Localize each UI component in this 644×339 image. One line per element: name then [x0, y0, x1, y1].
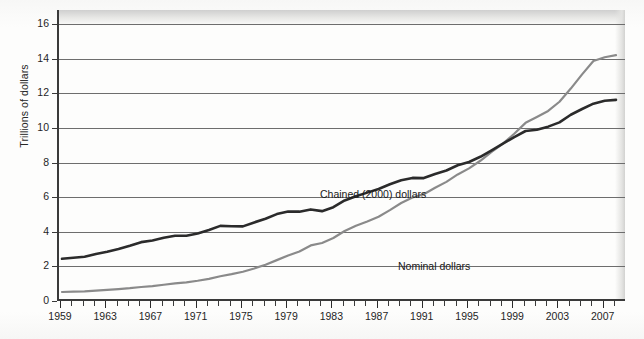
y-tick-mark	[52, 301, 57, 302]
x-tick-minor	[218, 301, 219, 306]
x-tick-label: 1967	[128, 310, 172, 322]
y-tick-label: 0	[27, 294, 49, 306]
x-tick-label: 1983	[309, 310, 353, 322]
x-tick-minor	[71, 301, 72, 306]
x-tick-minor	[309, 301, 310, 306]
y-tick-mark	[52, 163, 57, 164]
x-tick-minor	[94, 301, 95, 306]
x-tick-major	[557, 301, 558, 308]
x-tick-minor	[388, 301, 389, 306]
x-tick-minor	[410, 301, 411, 306]
x-tick-major	[286, 301, 287, 308]
x-tick-minor	[173, 301, 174, 306]
x-tick-major	[105, 301, 106, 308]
x-tick-label: 1975	[219, 310, 263, 322]
x-tick-minor	[117, 301, 118, 306]
x-tick-minor	[128, 301, 129, 306]
plot-area: Chained (2000) dollars Nominal dollars	[57, 10, 625, 301]
x-tick-minor	[490, 301, 491, 306]
x-tick-minor	[444, 301, 445, 306]
x-tick-major	[603, 301, 604, 308]
x-tick-major	[512, 301, 513, 308]
x-tick-label: 1991	[400, 310, 444, 322]
x-tick-minor	[580, 301, 581, 306]
x-tick-label: 2003	[535, 310, 579, 322]
x-tick-minor	[162, 301, 163, 306]
x-tick-major	[467, 301, 468, 308]
x-tick-minor	[320, 301, 321, 306]
y-tick-mark	[52, 266, 57, 267]
x-tick-minor	[83, 301, 84, 306]
y-tick-label: 4	[27, 225, 49, 237]
x-tick-label: 2007	[581, 310, 625, 322]
x-tick-label: 1959	[38, 310, 82, 322]
y-tick-mark	[52, 24, 57, 25]
x-tick-label: 1999	[490, 310, 534, 322]
x-tick-major	[241, 301, 242, 308]
x-tick-label: 1963	[83, 310, 127, 322]
x-tick-minor	[591, 301, 592, 306]
y-tick-label: 12	[27, 86, 49, 98]
x-tick-minor	[614, 301, 615, 306]
x-tick-major	[331, 301, 332, 308]
x-tick-minor	[252, 301, 253, 306]
x-tick-label: 1979	[264, 310, 308, 322]
x-tick-minor	[535, 301, 536, 306]
x-tick-label: 1971	[174, 310, 218, 322]
x-tick-label: 1995	[445, 310, 489, 322]
x-tick-minor	[230, 301, 231, 306]
y-tick-label: 2	[27, 259, 49, 271]
x-tick-minor	[478, 301, 479, 306]
x-tick-major	[196, 301, 197, 308]
x-tick-minor	[365, 301, 366, 306]
x-tick-minor	[456, 301, 457, 306]
gdp-line-chart: Trillions of dollars Chained (2000) doll…	[0, 0, 644, 339]
y-tick-label: 8	[27, 156, 49, 168]
x-tick-minor	[354, 301, 355, 306]
x-tick-label: 1987	[355, 310, 399, 322]
x-tick-major	[422, 301, 423, 308]
x-tick-major	[377, 301, 378, 308]
x-tick-minor	[139, 301, 140, 306]
series-label-nominal: Nominal dollars	[398, 260, 470, 272]
x-tick-minor	[264, 301, 265, 306]
y-tick-mark	[52, 93, 57, 94]
x-tick-minor	[343, 301, 344, 306]
x-tick-minor	[184, 301, 185, 306]
y-tick-label: 14	[27, 52, 49, 64]
x-tick-minor	[275, 301, 276, 306]
x-tick-minor	[501, 301, 502, 306]
y-tick-label: 16	[27, 17, 49, 29]
series-line-nominal	[62, 55, 616, 292]
x-tick-minor	[207, 301, 208, 306]
y-tick-mark	[52, 197, 57, 198]
y-tick-label: 10	[27, 121, 49, 133]
series-layer	[59, 10, 627, 301]
x-tick-minor	[524, 301, 525, 306]
x-tick-minor	[433, 301, 434, 306]
x-tick-minor	[399, 301, 400, 306]
x-tick-minor	[546, 301, 547, 306]
y-tick-mark	[52, 232, 57, 233]
y-tick-mark	[52, 128, 57, 129]
x-tick-major	[150, 301, 151, 308]
y-tick-label: 6	[27, 190, 49, 202]
x-tick-minor	[297, 301, 298, 306]
x-tick-major	[60, 301, 61, 308]
x-tick-minor	[569, 301, 570, 306]
series-label-chained: Chained (2000) dollars	[320, 188, 426, 200]
y-tick-mark	[52, 59, 57, 60]
